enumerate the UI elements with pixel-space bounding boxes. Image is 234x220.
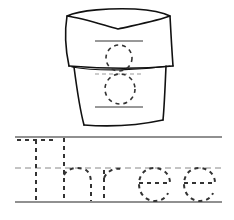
worksheet: 8 Three	[0, 0, 234, 220]
worksheet-drawing	[0, 0, 234, 220]
flower-pot-icon	[66, 9, 173, 126]
digit-eight-trace	[95, 41, 143, 107]
word-three-trace	[17, 138, 215, 201]
